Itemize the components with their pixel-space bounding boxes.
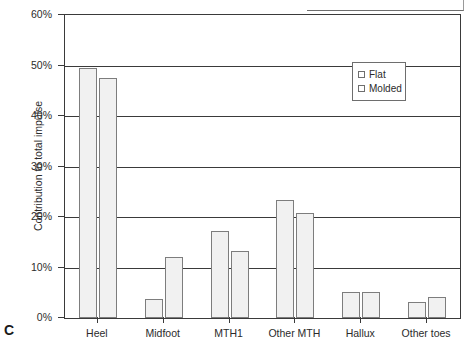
- figure-panel-c: C Contribution to total impulse 0%10%20%…: [0, 0, 464, 347]
- bar-flat-mth1: [211, 231, 229, 318]
- x-axis-label-hallux: Hallux: [346, 327, 375, 339]
- bar-flat-other-toes: [408, 302, 426, 318]
- legend-item-molded: Molded: [358, 81, 400, 95]
- legend-swatch-molded-icon: [358, 85, 365, 92]
- y-axis-label-50: 50%: [0, 59, 52, 71]
- y-axis-label-30: 30%: [0, 160, 52, 172]
- legend-label-flat: Flat: [369, 69, 386, 80]
- y-axis-label-60: 60%: [0, 8, 52, 20]
- y-tick-30: [58, 166, 64, 167]
- bar-molded-midfoot: [165, 257, 183, 318]
- legend-item-flat: Flat: [358, 67, 400, 81]
- gridline-30: [65, 167, 460, 168]
- bar-flat-midfoot: [145, 299, 163, 318]
- legend-swatch-flat-icon: [358, 71, 365, 78]
- y-axis-label-10: 10%: [0, 261, 52, 273]
- bar-molded-heel: [99, 78, 117, 318]
- x-tick-mth1: [229, 317, 230, 323]
- bar-flat-hallux: [342, 292, 360, 318]
- y-axis-label-20: 20%: [0, 210, 52, 222]
- x-tick-other-mth: [294, 317, 295, 323]
- x-axis-label-heel: Heel: [86, 327, 108, 339]
- y-tick-50: [58, 65, 64, 66]
- bar-molded-hallux: [362, 292, 380, 318]
- y-axis-tick-labels: 0%10%20%30%40%50%60%: [0, 0, 52, 347]
- x-axis-label-other-toes: Other toes: [402, 327, 451, 339]
- bar-flat-heel: [79, 68, 97, 318]
- y-tick-10: [58, 267, 64, 268]
- x-tick-other-toes: [426, 317, 427, 323]
- x-tick-midfoot: [163, 317, 164, 323]
- chart-legend: Flat Molded: [352, 62, 406, 101]
- y-axis-label-0: 0%: [0, 311, 52, 323]
- gridline-10: [65, 268, 460, 269]
- x-tick-hallux: [360, 317, 361, 323]
- bar-molded-other-mth: [296, 213, 314, 318]
- bar-flat-other-mth: [276, 200, 294, 318]
- y-axis-label-40: 40%: [0, 109, 52, 121]
- bar-molded-other-toes: [428, 297, 446, 318]
- x-axis-label-midfoot: Midfoot: [146, 327, 180, 339]
- y-tick-60: [58, 14, 64, 15]
- y-tick-20: [58, 216, 64, 217]
- y-tick-0: [58, 317, 64, 318]
- x-axis-label-mth1: MTH1: [214, 327, 243, 339]
- y-tick-40: [58, 115, 64, 116]
- plot-area: [64, 14, 461, 319]
- legend-label-molded: Molded: [369, 83, 402, 94]
- bar-molded-mth1: [231, 251, 249, 318]
- gridline-20: [65, 217, 460, 218]
- gridlines: [65, 15, 460, 318]
- gridline-40: [65, 116, 460, 117]
- x-tick-heel: [97, 317, 98, 323]
- x-axis-label-other-mth: Other MTH: [268, 327, 320, 339]
